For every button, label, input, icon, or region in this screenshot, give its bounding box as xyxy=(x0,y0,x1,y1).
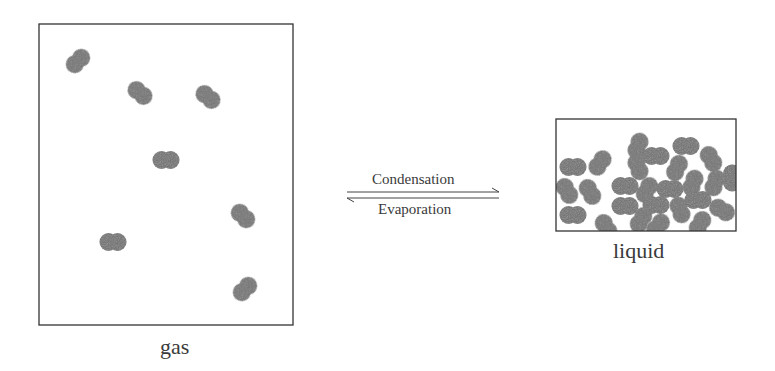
molecule xyxy=(696,143,725,175)
molecule xyxy=(643,147,670,165)
molecule xyxy=(227,200,259,232)
molecule xyxy=(229,273,261,305)
molecule xyxy=(612,197,639,215)
molecule xyxy=(153,151,180,169)
gas-molecules xyxy=(62,45,261,305)
liquid-label: liquid xyxy=(613,238,664,264)
molecule xyxy=(723,165,741,192)
molecule xyxy=(673,137,700,155)
molecule xyxy=(560,158,587,176)
evaporation-label: Evaporation xyxy=(378,201,451,218)
molecule xyxy=(657,180,684,198)
molecule xyxy=(100,233,127,251)
molecule xyxy=(552,175,581,207)
molecule xyxy=(685,191,712,209)
molecule xyxy=(192,81,224,112)
molecule xyxy=(585,147,615,179)
condensation-label: Condensation xyxy=(372,171,455,188)
gas-label: gas xyxy=(160,334,189,360)
liquid-molecules xyxy=(552,130,741,243)
molecule xyxy=(124,77,156,108)
equilibrium-arrows xyxy=(347,188,499,202)
molecule xyxy=(575,176,604,208)
molecule xyxy=(62,45,94,77)
molecule xyxy=(560,206,587,224)
molecule xyxy=(612,177,639,195)
